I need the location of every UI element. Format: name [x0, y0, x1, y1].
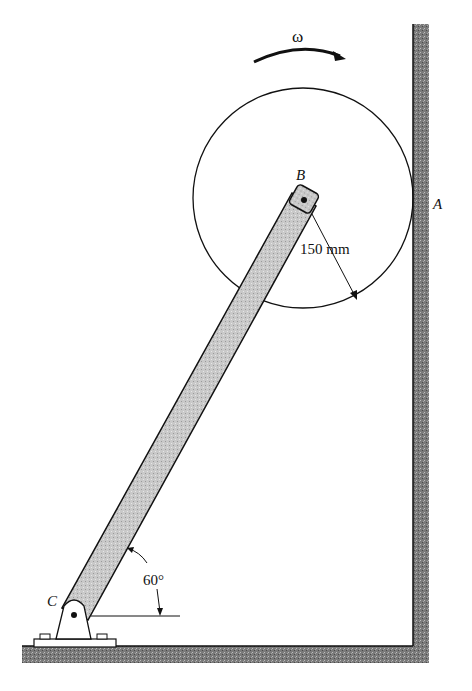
point-a-label: A: [432, 196, 443, 212]
rod-bc: [62, 184, 320, 620]
omega-label: ω: [292, 27, 303, 46]
radius-label: 150 mm: [300, 241, 350, 257]
point-b-label: B: [296, 167, 305, 183]
omega-arrowhead-icon: [333, 51, 346, 61]
mechanism-diagram: ω B A C 150 mm 60°: [0, 0, 472, 691]
angle-label: 60°: [143, 572, 164, 588]
point-c-label: C: [47, 593, 58, 609]
angle-arrowhead-bottom: [157, 608, 163, 616]
pin-b-icon: [301, 197, 307, 203]
ground-floor: [22, 646, 429, 663]
omega-rotation-arrow: [254, 49, 340, 62]
radius-arrowhead: [350, 290, 357, 300]
angle-arrowhead-top: [127, 547, 134, 553]
vertical-wall: [413, 24, 429, 660]
